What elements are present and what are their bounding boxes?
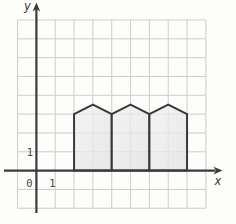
axes xyxy=(4,3,223,214)
y-axis-label: y xyxy=(23,0,31,13)
origin-label: 0 xyxy=(26,177,32,189)
house-shape-1 xyxy=(74,105,112,171)
figure-page: y x 0 1 1 xyxy=(0,0,236,224)
x-tick-label-1: 1 xyxy=(49,177,55,189)
house-shape-3 xyxy=(149,105,187,171)
y-tick-label-1: 1 xyxy=(27,146,33,158)
x-axis-label: x xyxy=(214,174,222,188)
house-shape-2 xyxy=(112,105,150,171)
coordinate-grid-figure: y x 0 1 1 xyxy=(0,0,236,224)
house-shapes xyxy=(74,105,187,171)
